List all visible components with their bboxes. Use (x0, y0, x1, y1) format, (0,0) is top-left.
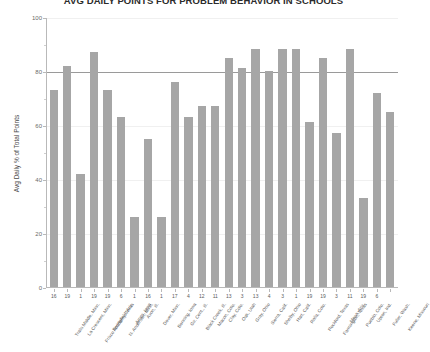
y-tick-label: 60 (35, 123, 42, 129)
bar (346, 49, 354, 287)
bar (211, 106, 219, 287)
x-tick-count: 1 (295, 293, 298, 299)
x-tick-mark (108, 289, 109, 292)
x-tick-count: 19 (361, 293, 367, 299)
y-tick-mark (43, 72, 46, 73)
y-tick-mark (43, 234, 46, 235)
bar (50, 90, 58, 287)
x-tick-count: 19 (320, 293, 326, 299)
bar (332, 133, 340, 287)
x-tick-count: 19 (64, 293, 70, 299)
y-tick-label: 0 (39, 285, 42, 291)
x-tick-count: 3 (335, 293, 338, 299)
bar-series (47, 18, 398, 287)
x-tick-count: 1 (160, 293, 163, 299)
y-tick-mark (43, 126, 46, 127)
bar (117, 117, 125, 287)
x-tick-mark (81, 289, 82, 292)
x-tick-count: 16 (51, 293, 57, 299)
chart-title: AVG DAILY POINTS FOR PROBLEM BEHAVIOR IN… (0, 0, 407, 6)
bar (130, 217, 138, 287)
bar (171, 82, 179, 287)
x-tick-mark (336, 289, 337, 292)
x-tick-count: 19 (105, 293, 111, 299)
y-tick-label: 40 (35, 177, 42, 183)
bar (359, 198, 367, 287)
y-minor-tick (44, 261, 46, 262)
x-axis-line (46, 287, 398, 288)
bar (386, 112, 394, 288)
bar (103, 90, 111, 287)
bar (238, 68, 246, 287)
x-tick-mark (256, 289, 257, 292)
bar (265, 71, 273, 287)
bar (373, 93, 381, 287)
bar (225, 58, 233, 288)
bar (76, 174, 84, 287)
x-tick-mark (54, 289, 55, 292)
x-tick-count: 11 (213, 293, 218, 299)
y-tick-mark (43, 18, 46, 19)
x-tick-mark (363, 289, 364, 292)
plot-area: 020406080100 (46, 18, 398, 288)
bar (305, 122, 313, 287)
x-tick-count: 19 (307, 293, 313, 299)
x-tick-mark (135, 289, 136, 292)
x-tick-mark (202, 289, 203, 292)
x-tick-mark (229, 289, 230, 292)
y-tick-label: 100 (32, 15, 42, 21)
x-tick-count: 11 (347, 293, 352, 299)
x-tick-mark (310, 289, 311, 292)
x-tick-count: 13 (253, 293, 259, 299)
x-tick-mark (242, 289, 243, 292)
x-tick-label: Gray, Ohio (255, 302, 272, 323)
y-tick-label: 20 (35, 231, 42, 237)
x-tick-mark (283, 289, 284, 292)
bar (90, 52, 98, 287)
x-tick-mark (350, 289, 351, 292)
y-tick-mark (43, 180, 46, 181)
x-axis: 16Trails Middle, Minn.19La Crescent, Min… (46, 289, 398, 352)
x-tick-count: 6 (375, 293, 378, 299)
x-tick-count: 17 (172, 293, 178, 299)
x-tick-count: 12 (199, 293, 205, 299)
x-tick-count: 19 (91, 293, 97, 299)
bar (144, 139, 152, 288)
x-tick-mark (121, 289, 122, 292)
x-tick-count: 13 (226, 293, 232, 299)
x-tick-count: 3 (281, 293, 284, 299)
y-minor-tick (44, 99, 46, 100)
x-tick-mark (148, 289, 149, 292)
x-tick-count: 16 (145, 293, 151, 299)
x-tick-label: Fuller, Wash. (391, 302, 410, 327)
y-minor-tick (44, 153, 46, 154)
x-tick-label: Mesa, Ariz. (349, 302, 366, 323)
x-tick-count: 6 (120, 293, 123, 299)
bar (157, 217, 165, 287)
y-minor-tick (44, 207, 46, 208)
x-tick-mark (94, 289, 95, 292)
bar (251, 49, 259, 287)
bar (278, 49, 286, 287)
x-tick-mark (296, 289, 297, 292)
x-tick-mark (377, 289, 378, 292)
x-tick-label: Keene, Missouri (407, 302, 430, 332)
bar (319, 58, 327, 288)
x-tick-mark (390, 289, 391, 292)
x-tick-count: 4 (187, 293, 190, 299)
bar (63, 66, 71, 287)
y-minor-tick (44, 45, 46, 46)
bar (292, 49, 300, 287)
x-tick-label: Rolla, Colo. (309, 302, 327, 324)
x-tick-mark (67, 289, 68, 292)
x-tick-count: 4 (268, 293, 271, 299)
y-tick-label: 80 (35, 69, 42, 75)
x-tick-mark (188, 289, 189, 292)
x-tick-count: 1 (133, 293, 136, 299)
x-tick-mark (215, 289, 216, 292)
bar (198, 106, 206, 287)
x-tick-mark (323, 289, 324, 292)
x-tick-count: 3 (241, 293, 244, 299)
x-tick-mark (175, 289, 176, 292)
